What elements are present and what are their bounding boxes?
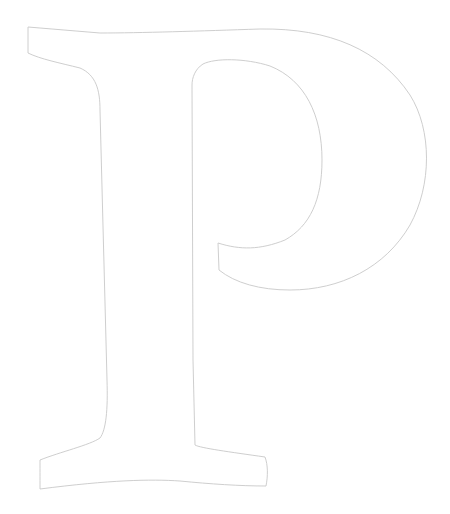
- letter-p-outline-icon: [0, 0, 450, 514]
- glyph-outer-contour: [28, 27, 427, 489]
- glyph-canvas: P: [0, 0, 450, 514]
